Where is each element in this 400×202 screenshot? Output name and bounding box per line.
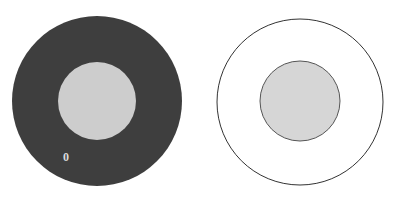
left-inner-circle xyxy=(58,62,136,140)
diagram-canvas: 0 xyxy=(0,0,400,202)
zero-label: 0 xyxy=(59,149,73,165)
left-panel-group xyxy=(12,16,182,186)
right-inner-circle xyxy=(260,61,340,141)
right-panel-group xyxy=(217,19,383,185)
concentric-circles-figure xyxy=(0,0,400,202)
